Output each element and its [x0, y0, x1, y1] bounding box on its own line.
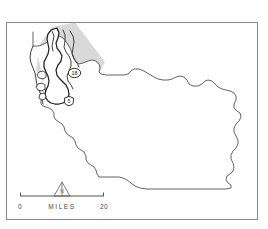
marker-18[interactable]: 18: [68, 68, 80, 77]
marker-5-label: 5: [68, 99, 71, 104]
map-canvas: 18 5 N 0 MILES 20: [0, 0, 268, 229]
scale-label-max: 20: [100, 203, 108, 210]
north-arrow-label: N: [60, 188, 64, 194]
island-south: [39, 93, 46, 100]
marker-5[interactable]: 5: [65, 96, 74, 105]
marker-18-label: 18: [72, 70, 78, 76]
map-figure: 18 5 N 0 MILES 20: [0, 0, 268, 229]
scale-label-min: 0: [18, 203, 22, 210]
scale-label-units: MILES: [48, 203, 75, 210]
